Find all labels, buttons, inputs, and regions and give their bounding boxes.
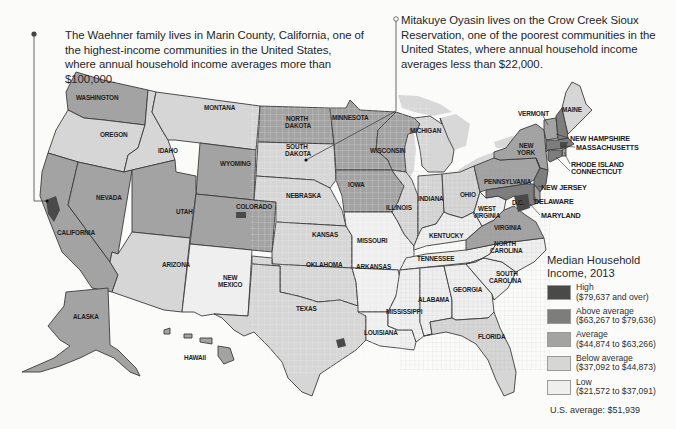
label-kansas: KANSAS xyxy=(312,231,339,238)
label-massachusetts: MASSACHUSETTS xyxy=(576,143,639,152)
hotspot-denver xyxy=(236,212,246,218)
label-nebraska: NEBRASKA xyxy=(286,192,322,199)
label-indiana: INDIANA xyxy=(418,195,444,202)
us-average: U.S. average: $51,939 xyxy=(550,405,675,415)
label-connecticut: CONNECTICUT xyxy=(571,167,622,176)
state-wyoming[interactable] xyxy=(196,143,256,200)
state-new-mexico[interactable] xyxy=(182,244,252,316)
state-connecticut[interactable] xyxy=(548,150,562,162)
label-virginia: VIRGINIA xyxy=(494,224,522,231)
label-hawaii: HAWAII xyxy=(184,354,206,361)
hawaii-island-oahu xyxy=(184,334,192,338)
label-montana: MONTANA xyxy=(204,104,236,111)
label-pennsylvania: PENNSYLVANIA xyxy=(484,178,532,185)
label-missouri: MISSOURI xyxy=(357,237,388,244)
label-north-carolina-2: CAROLINA xyxy=(490,247,523,254)
legend-swatch-below-average xyxy=(547,356,571,371)
label-oklahoma: OKLAHOMA xyxy=(306,261,343,268)
label-maryland: MARYLAND xyxy=(541,211,581,220)
callout-marin-county: The Waehner family lives in Marin County… xyxy=(65,28,365,86)
label-mississippi: MISSISSIPPI xyxy=(386,308,423,315)
label-arizona: ARIZONA xyxy=(162,261,191,268)
label-new-york-2: YORK xyxy=(517,149,535,156)
label-alabama: ALABAMA xyxy=(418,296,450,303)
label-new-york-1: NEW xyxy=(519,142,535,149)
label-washington: WASHINGTON xyxy=(76,94,119,101)
label-new-jersey: NEW JERSEY xyxy=(541,183,587,192)
state-arizona[interactable] xyxy=(110,232,190,312)
legend-range-average: ($44,874 to $63,266) xyxy=(576,340,656,349)
label-dc: D.C. xyxy=(512,199,525,206)
label-new-mexico-2: MEXICO xyxy=(218,281,242,288)
label-north-dakota-2: DAKOTA xyxy=(285,122,311,129)
legend-range-below-average: ($37,092 to $44,873) xyxy=(576,363,656,372)
legend-item-below-average: Below average ($37,092 to $44,873) xyxy=(547,354,675,378)
label-north-carolina-1: NORTH xyxy=(494,240,517,247)
label-new-hampshire: NEW HAMPSHIRE xyxy=(570,134,630,143)
label-south-carolina-2: CAROLINA xyxy=(489,277,522,284)
legend-range-above-average: ($63,267 to $79,636) xyxy=(576,316,656,325)
label-california: CALIFORNIA xyxy=(57,229,95,236)
label-florida: FLORIDA xyxy=(478,333,506,340)
label-vermont: VERMONT xyxy=(518,110,549,117)
label-tennessee: TENNESSEE xyxy=(417,255,455,262)
label-alaska: ALASKA xyxy=(73,313,99,320)
label-arkansas: ARKANSAS xyxy=(356,263,392,270)
label-georgia: GEORGIA xyxy=(453,286,483,293)
hollow-dot-icon xyxy=(394,17,399,22)
label-louisiana: LOUISIANA xyxy=(364,329,398,336)
label-michigan: MICHIGAN xyxy=(410,127,442,134)
state-florida[interactable] xyxy=(424,312,516,396)
label-nevada: NEVADA xyxy=(96,194,122,201)
label-oregon: OREGON xyxy=(100,131,128,138)
hawaii-island-kauai xyxy=(164,328,170,334)
label-utah: UTAH xyxy=(176,208,193,215)
label-idaho: IDAHO xyxy=(158,147,178,154)
label-ohio: OHIO xyxy=(460,191,476,198)
label-north-dakota-1: NORTH xyxy=(286,115,309,122)
legend-range-low: ($21,572 to $37,091) xyxy=(576,387,656,396)
label-wyoming: WYOMING xyxy=(220,160,251,167)
label-iowa: IOWA xyxy=(348,181,365,188)
label-south-dakota-2: DAKOTA xyxy=(285,150,311,157)
legend-swatch-average xyxy=(547,332,571,347)
state-utah[interactable] xyxy=(132,160,196,238)
legend-swatch-high xyxy=(547,285,571,300)
label-texas: TEXAS xyxy=(296,305,317,312)
label-kentucky: KENTUCKY xyxy=(429,232,464,239)
legend-range-high: ($79,637 and over) xyxy=(576,293,649,302)
legend-title: Median Household Income, 2013 xyxy=(547,254,675,279)
hawaii-island-big xyxy=(218,346,234,364)
callout-crow-creek: Mitakuye Oyasin lives on the Crow Creek … xyxy=(401,13,666,71)
legend-swatch-above-average xyxy=(547,309,571,324)
label-minnesota: MINNESOTA xyxy=(332,114,369,121)
label-maine: MAINE xyxy=(562,106,583,113)
legend-item-above-average: Above average ($63,267 to $79,636) xyxy=(547,307,675,331)
label-wisconsin: WISCONSIN xyxy=(370,147,406,154)
label-colorado: COLORADO xyxy=(236,203,272,210)
label-new-mexico-1: NEW xyxy=(223,274,239,281)
label-illinois: ILLINOIS xyxy=(386,204,413,211)
legend-item-average: Average ($44,874 to $63,266) xyxy=(547,330,675,354)
label-west-virginia-2: VIRGINIA xyxy=(473,212,501,219)
label-west-virginia-1: WEST xyxy=(478,205,496,212)
lake-superior xyxy=(398,95,452,116)
label-delaware: DELAWARE xyxy=(534,197,574,206)
label-south-carolina-1: SOUTH xyxy=(496,270,518,277)
filled-dot-icon xyxy=(31,31,36,36)
legend-swatch-low xyxy=(547,380,571,395)
state-alaska[interactable] xyxy=(22,288,140,376)
marin-county-marker-icon xyxy=(45,199,48,202)
hawaii-island-maui xyxy=(200,338,212,344)
legend: Median Household Income, 2013 High ($79,… xyxy=(547,254,675,415)
crow-creek-marker-icon xyxy=(304,158,307,161)
label-south-dakota-1: SOUTH xyxy=(286,143,308,150)
legend-item-low: Low ($21,572 to $37,091) xyxy=(547,378,675,402)
legend-item-high: High ($79,637 and over) xyxy=(547,283,675,307)
